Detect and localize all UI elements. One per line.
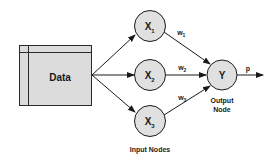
output-node-caption-1: Output: [211, 97, 235, 105]
svg-text:Y: Y: [219, 70, 226, 81]
data-box-label: Data: [49, 72, 71, 83]
edge-data-x1: [92, 35, 135, 75]
perceptron-diagram: Data X 1 X 2 X 3 Y w 1 w 2: [0, 0, 280, 161]
weight-w2: w 2: [177, 64, 186, 73]
input-node-x2: X 2: [135, 60, 166, 91]
weight-w3: w 3: [177, 94, 186, 103]
output-node-y: Y: [207, 60, 237, 90]
weight-w1: w 1: [176, 29, 185, 38]
output-arrow-label: p: [246, 65, 250, 73]
edge-x1-y: [164, 32, 210, 64]
svg-text:3: 3: [184, 97, 187, 103]
output-node-caption-2: Node: [213, 106, 231, 113]
input-node-x1: X 1: [135, 11, 166, 42]
edge-data-x3: [92, 75, 135, 112]
svg-text:2: 2: [184, 67, 187, 73]
edge-x3-y: [164, 86, 210, 115]
input-node-x3: X 3: [135, 106, 166, 137]
data-to-input-edges: [92, 35, 135, 112]
input-nodes-caption: Input Nodes: [130, 146, 171, 154]
svg-text:1: 1: [183, 32, 186, 38]
data-box: Data: [20, 46, 92, 106]
